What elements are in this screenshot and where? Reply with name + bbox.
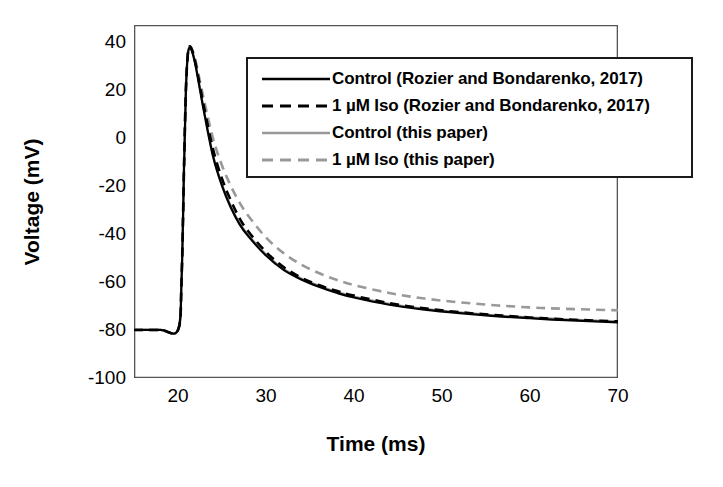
x-tick-label: 20 xyxy=(148,386,208,405)
y-tick-label: 40 xyxy=(60,32,126,51)
legend-row: 1 µM Iso (Rozier and Bondarenko, 2017) xyxy=(248,92,691,119)
x-tick-label: 50 xyxy=(412,386,472,405)
x-tick-label: 30 xyxy=(236,386,296,405)
x-tick-label: 60 xyxy=(500,386,560,405)
y-tick-label: 0 xyxy=(60,128,126,147)
x-tick-label: 70 xyxy=(588,386,648,405)
legend-line-swatch xyxy=(260,119,332,146)
y-axis-tick-labels: 40200-20-40-60-80-100 xyxy=(40,0,126,487)
y-tick-label: -60 xyxy=(60,272,126,291)
legend-line-swatch xyxy=(260,65,332,92)
legend-label: 1 µM Iso (this paper) xyxy=(332,150,495,170)
x-tick-label: 40 xyxy=(324,386,384,405)
y-tick-label: -20 xyxy=(60,176,126,195)
legend-label: Control (Rozier and Bondarenko, 2017) xyxy=(332,69,643,89)
legend-line-swatch xyxy=(260,92,332,119)
legend-box: Control (Rozier and Bondarenko, 2017)1 µ… xyxy=(246,57,693,178)
legend-row: Control (Rozier and Bondarenko, 2017) xyxy=(248,65,691,92)
y-tick-label: -80 xyxy=(60,320,126,339)
legend-line-swatch xyxy=(260,146,332,173)
legend-label: 1 µM Iso (Rozier and Bondarenko, 2017) xyxy=(332,96,650,116)
x-axis-title: Time (ms) xyxy=(134,432,618,456)
legend-row: Control (this paper) xyxy=(248,119,691,146)
action-potential-figure: Voltage (mV) Time (ms) 40200-20-40-60-80… xyxy=(0,0,723,487)
y-tick-label: -100 xyxy=(60,368,126,387)
legend-label: Control (this paper) xyxy=(332,123,488,143)
y-tick-label: 20 xyxy=(60,80,126,99)
y-tick-label: -40 xyxy=(60,224,126,243)
legend-row: 1 µM Iso (this paper) xyxy=(248,146,691,173)
